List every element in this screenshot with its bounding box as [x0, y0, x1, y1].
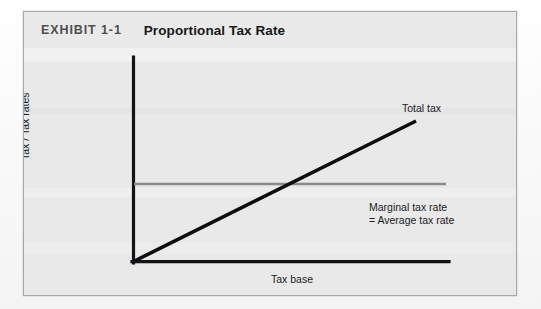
rate-label-group: Marginal tax rate = Average tax rate	[369, 201, 454, 227]
total-tax-label: Total tax	[402, 102, 441, 115]
total-tax-line	[135, 121, 417, 261]
chart-plot-area: Total tax Marginal tax rate = Average ta…	[24, 12, 517, 296]
y-axis-label: Tax / Tax rates	[23, 92, 32, 160]
exhibit-panel: EXHIBIT 1-1 Proportional Tax Rate Total …	[23, 11, 517, 296]
chart-svg	[24, 12, 517, 296]
x-axis-label: Tax base	[271, 273, 313, 286]
average-tax-rate-label: = Average tax rate	[369, 214, 454, 227]
figure-root: EXHIBIT 1-1 Proportional Tax Rate Total …	[0, 0, 541, 309]
marginal-tax-rate-label: Marginal tax rate	[369, 201, 454, 214]
